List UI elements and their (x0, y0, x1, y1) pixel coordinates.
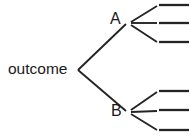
node-label-a: A (110, 11, 121, 27)
edge-b-branch-2 (131, 111, 157, 112)
leaf-stub-group-a (159, 5, 189, 42)
root-node-label: outcome (8, 61, 67, 77)
node-label-b: B (111, 103, 122, 119)
edge-b-branch-1 (131, 92, 157, 110)
tree-diagram: outcome A B (0, 0, 191, 137)
edge-b-branch-3 (131, 114, 157, 130)
node-a-branch-group (131, 6, 157, 42)
edge-a-branch-3 (131, 25, 157, 42)
node-b-branch-group (131, 92, 157, 130)
leaf-stub-group-b (159, 91, 189, 130)
root-edge-group (78, 24, 126, 111)
edge-a-branch-1 (131, 6, 157, 22)
edge-root-to-a (78, 24, 126, 70)
